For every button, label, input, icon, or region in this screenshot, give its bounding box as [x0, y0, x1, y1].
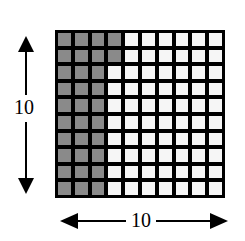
- grid-cell-shaded: [58, 99, 71, 112]
- grid-cell-shaded: [92, 149, 105, 162]
- grid-cell-shaded: [75, 116, 88, 129]
- grid-cell: [125, 133, 138, 146]
- grid-cell: [192, 166, 205, 179]
- grid-cell: [176, 116, 189, 129]
- height-arrow-line: [25, 50, 27, 95]
- grid-cell: [159, 83, 172, 96]
- grid-cell: [108, 149, 121, 162]
- grid-cell: [192, 182, 205, 195]
- grid-cell: [159, 116, 172, 129]
- grid-cell-shaded: [92, 166, 105, 179]
- grid-cell: [176, 33, 189, 46]
- grid-cell: [209, 133, 222, 146]
- grid-cell-shaded: [75, 149, 88, 162]
- grid-cell: [108, 99, 121, 112]
- grid-cell: [142, 99, 155, 112]
- grid-cell: [192, 33, 205, 46]
- grid-cell: [125, 66, 138, 79]
- grid-cell: [176, 166, 189, 179]
- grid-cell-shaded: [92, 50, 105, 63]
- grid-cell: [142, 50, 155, 63]
- grid-cell: [176, 182, 189, 195]
- grid-cell-shaded: [92, 116, 105, 129]
- grid-cell: [159, 50, 172, 63]
- grid-cell-shaded: [108, 33, 121, 46]
- grid-cell: [209, 66, 222, 79]
- grid-cell: [209, 166, 222, 179]
- arrow-down-icon: [18, 178, 34, 194]
- grid-cell: [142, 182, 155, 195]
- grid-cell: [108, 166, 121, 179]
- grid-cell: [176, 149, 189, 162]
- grid-cell: [192, 83, 205, 96]
- grid-cell: [142, 83, 155, 96]
- grid-cell-shaded: [58, 50, 71, 63]
- grid-cell: [125, 99, 138, 112]
- height-label: 10: [14, 97, 34, 117]
- grid-cell: [209, 182, 222, 195]
- grid-cell: [108, 116, 121, 129]
- grid-cell-shaded: [58, 116, 71, 129]
- grid-cell: [192, 133, 205, 146]
- grid-cell-shaded: [92, 66, 105, 79]
- grid-cell: [142, 149, 155, 162]
- grid-cell: [142, 133, 155, 146]
- grid-cell-shaded: [58, 149, 71, 162]
- grid-cell: [125, 149, 138, 162]
- grid-cell: [142, 66, 155, 79]
- grid-cell: [176, 50, 189, 63]
- grid-cell-shaded: [108, 50, 121, 63]
- arrow-up-icon: [18, 36, 34, 52]
- arrow-left-icon: [60, 213, 78, 229]
- width-arrow-line: [156, 220, 212, 222]
- grid-cell-shaded: [75, 133, 88, 146]
- grid-cell-shaded: [92, 182, 105, 195]
- grid-cell: [159, 149, 172, 162]
- grid-cell: [209, 50, 222, 63]
- grid-cell-shaded: [58, 166, 71, 179]
- grid-cell: [209, 33, 222, 46]
- grid-cell: [125, 83, 138, 96]
- grid-cell: [125, 50, 138, 63]
- grid-cell: [108, 83, 121, 96]
- grid-cell-shaded: [75, 66, 88, 79]
- height-arrow-line: [25, 122, 27, 180]
- grid-cell-shaded: [58, 182, 71, 195]
- hundred-grid: [55, 30, 225, 198]
- arrow-right-icon: [210, 213, 228, 229]
- width-arrow-line: [76, 220, 126, 222]
- grid-cell-shaded: [75, 50, 88, 63]
- grid-cell-shaded: [92, 83, 105, 96]
- grid-cell: [192, 66, 205, 79]
- grid-cell: [142, 116, 155, 129]
- grid-cell: [125, 116, 138, 129]
- width-label: 10: [131, 210, 151, 230]
- grid-cell: [142, 33, 155, 46]
- grid-cell: [159, 33, 172, 46]
- grid-cell: [108, 66, 121, 79]
- grid-cell: [209, 83, 222, 96]
- grid-cell: [159, 182, 172, 195]
- grid-cell-shaded: [92, 133, 105, 146]
- grid-cell: [108, 133, 121, 146]
- grid-cell: [125, 166, 138, 179]
- grid-cell: [159, 166, 172, 179]
- grid-cell-shaded: [75, 99, 88, 112]
- grid-cell-shaded: [58, 83, 71, 96]
- grid-cell-shaded: [92, 33, 105, 46]
- grid-cell: [159, 66, 172, 79]
- grid-cell: [176, 66, 189, 79]
- grid-cell-shaded: [75, 83, 88, 96]
- grid-cell: [192, 116, 205, 129]
- grid-cell: [209, 99, 222, 112]
- grid-cell-shaded: [75, 166, 88, 179]
- grid-cell: [159, 133, 172, 146]
- grid-cell-shaded: [92, 99, 105, 112]
- grid-cell: [192, 50, 205, 63]
- grid-cell-shaded: [58, 33, 71, 46]
- grid-cell: [159, 99, 172, 112]
- grid-cell-shaded: [58, 66, 71, 79]
- grid-cell: [176, 99, 189, 112]
- grid-cell: [209, 149, 222, 162]
- grid-cell: [108, 182, 121, 195]
